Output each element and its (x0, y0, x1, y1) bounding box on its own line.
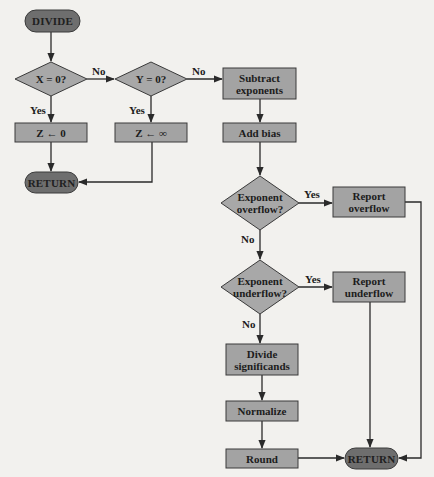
z-zero-process: Z ← 0 (15, 123, 87, 142)
round-process: Round (226, 449, 298, 468)
underflow-no-label: No (242, 318, 255, 330)
z-infinity-process: Z ← ∞ (115, 123, 187, 142)
add-bias-process: Add bias (223, 123, 296, 142)
x-zero-no-label: No (92, 65, 105, 77)
x-zero-yes-label: Yes (30, 104, 46, 116)
overflow-no-label: No (241, 233, 254, 245)
subtract-exponents-process: Subtract exponents (223, 68, 296, 99)
flowchart-canvas: DIVIDE X = 0? Y = 0? Z ← 0 Z ← ∞ RETURN … (0, 0, 434, 477)
y-zero-no-label: No (192, 65, 205, 77)
report-underflow-process: Report underflow (333, 272, 405, 302)
overflow-yes-label: Yes (304, 188, 320, 200)
normalize-process: Normalize (226, 401, 298, 421)
return-left-terminal: RETURN (25, 172, 78, 193)
underflow-yes-label: Yes (305, 273, 321, 285)
report-overflow-process: Report overflow (333, 187, 405, 217)
y-zero-yes-label: Yes (129, 104, 145, 116)
y-zero-decision: Y = 0? (115, 62, 187, 96)
divide-significands-process: Divide significands (226, 344, 298, 375)
divide-terminal: DIVIDE (25, 10, 80, 32)
exponent-underflow-decision: Exponent underflow? (221, 260, 299, 314)
x-zero-decision: X = 0? (15, 62, 87, 96)
return-right-terminal: RETURN (345, 448, 398, 469)
exponent-overflow-decision: Exponent overflow? (221, 176, 299, 230)
